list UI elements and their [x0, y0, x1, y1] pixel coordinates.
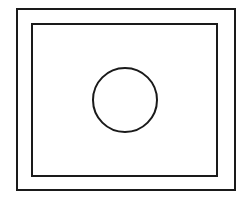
center-circle: [93, 68, 157, 132]
diagram-canvas: [0, 0, 248, 201]
inner-frame: [32, 24, 217, 176]
outer-frame: [17, 9, 235, 190]
